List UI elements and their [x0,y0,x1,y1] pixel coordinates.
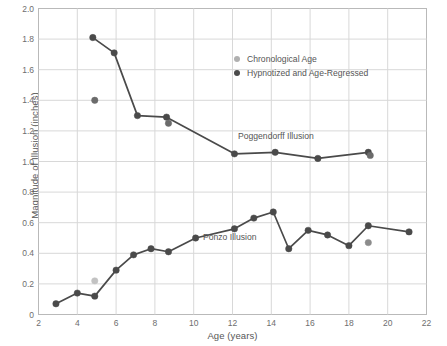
x-tick-label: 8 [140,318,170,328]
y-tick-label: 1.8 [0,34,34,44]
x-tick-label: 18 [334,318,364,328]
legend-label: Hypnotized and Age-Regressed [247,68,368,78]
x-tick-label: 6 [101,318,131,328]
x-tick-label: 2 [24,318,54,328]
x-tick-label: 22 [412,318,442,328]
x-axis-title: Age (years) [38,330,427,341]
x-tick-label: 16 [295,318,325,328]
annotation-ponzo: Ponzo Illusion [203,232,257,242]
y-tick-label: 2.0 [0,4,34,14]
chart-figure: 00.20.40.60.81.01.21.41.61.82.0 Magnitud… [0,0,447,346]
y-tick-label: 0.2 [0,279,34,289]
x-tick-label: 4 [62,318,92,328]
x-tick-label: 12 [218,318,248,328]
legend-item: Chronological Age [234,52,368,66]
legend-item: Hypnotized and Age-Regressed [234,66,368,80]
plot-area [38,8,427,315]
legend-marker-icon [234,70,240,76]
x-tick-label: 20 [373,318,403,328]
legend-marker-icon [234,56,240,62]
x-tick-label: 14 [256,318,286,328]
chart-legend: Chronological AgeHypnotized and Age-Regr… [234,52,368,80]
legend-label: Chronological Age [247,54,317,64]
x-tick-label: 10 [179,318,209,328]
annotation-poggendorff: Poggendorff Illusion [238,131,314,141]
